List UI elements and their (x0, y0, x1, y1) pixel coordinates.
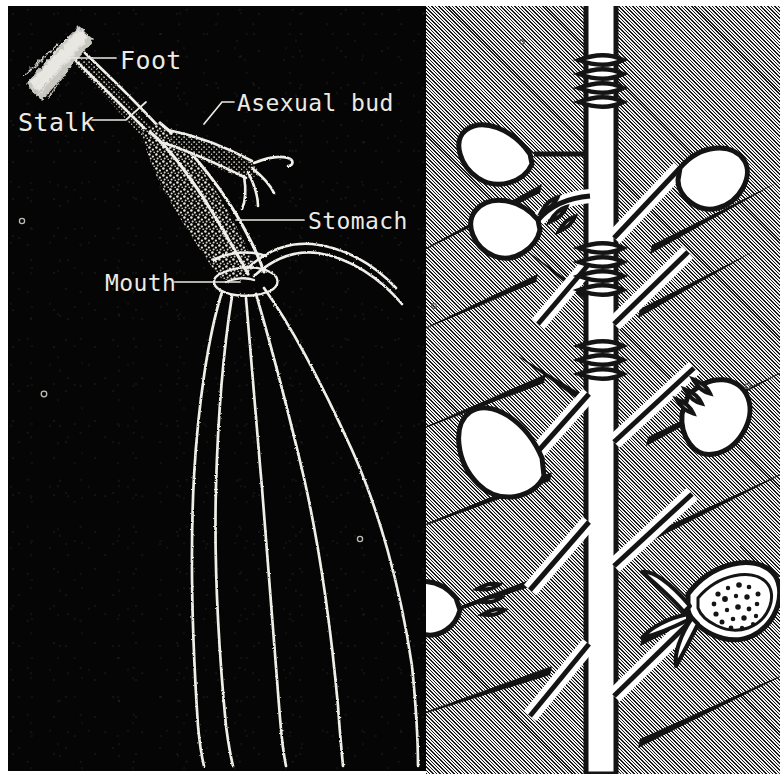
label-stalk: Stalk (18, 110, 95, 135)
leaf-bud (459, 408, 544, 497)
label-stomach: Stomach (308, 210, 408, 233)
tentacles-group (192, 288, 418, 766)
leader-asexual-bud (204, 102, 234, 124)
label-mouth: Mouth (105, 272, 176, 295)
label-asexual-bud: Asexual bud (237, 92, 394, 115)
leaf-bud (459, 125, 532, 184)
anatomy-plate: Foot Stalk Asexual bud Stomach Mouth (0, 0, 783, 783)
leaf-bud (678, 148, 747, 209)
right-panel-colony-branch (426, 6, 780, 774)
dust-specks (19, 218, 362, 541)
main-stem (586, 6, 616, 774)
left-panel-hydroid-diagram: Foot Stalk Asexual bud Stomach Mouth (8, 6, 426, 771)
leaf-bud (426, 581, 460, 635)
leaf-bud (471, 200, 540, 258)
stomach-structure (128, 111, 278, 291)
label-foot: Foot (120, 48, 182, 73)
colony-branch-drawing (426, 6, 780, 774)
